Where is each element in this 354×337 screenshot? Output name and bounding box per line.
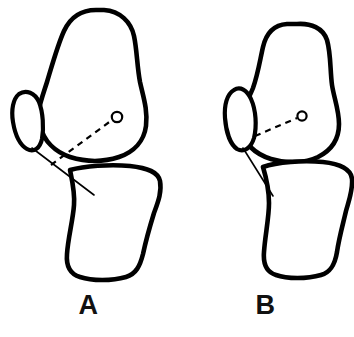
- condyle-center-marker-a: [112, 112, 122, 122]
- femur-outline-a: [39, 10, 147, 161]
- panel-label-b: B: [177, 292, 354, 319]
- panel-a: A: [0, 0, 177, 337]
- patella-outline-b: [225, 88, 256, 150]
- panel-b-drawing: [177, 0, 354, 300]
- femur-outline-b: [241, 24, 339, 162]
- panel-label-a: A: [0, 292, 177, 319]
- knee-joint-figure: A B: [0, 0, 354, 337]
- panel-b: B: [177, 0, 354, 337]
- condyle-center-marker-b: [297, 111, 306, 120]
- tibia-outline-a: [67, 165, 161, 280]
- panel-a-drawing: [0, 0, 177, 300]
- tibia-outline-b: [263, 161, 352, 278]
- patella-outline-a: [12, 92, 43, 151]
